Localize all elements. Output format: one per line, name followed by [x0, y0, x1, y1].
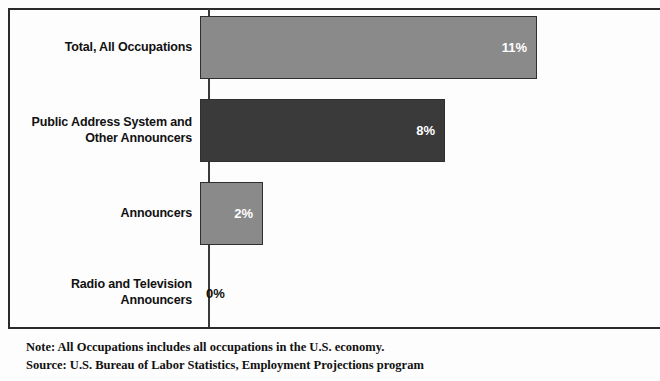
bar-track: 8%	[200, 99, 658, 162]
chart-figure: Total, All Occupations 11% Public Addres…	[0, 0, 660, 381]
bar-public-address-system-and-other-announcers: 8%	[200, 99, 445, 162]
bar-total-all-occupations: 11%	[200, 16, 537, 79]
bar-row: Public Address System and Other Announce…	[10, 99, 658, 162]
bar-value-label: 11%	[502, 40, 536, 55]
category-label-line1: Total, All Occupations	[65, 40, 192, 54]
category-label-line1: Public Address System and	[32, 115, 192, 129]
bar-value-label: 8%	[416, 123, 444, 138]
category-label: Announcers	[10, 206, 200, 222]
source-text: Source: U.S. Bureau of Labor Statistics,…	[26, 356, 646, 374]
category-label-line2: Other Announcers	[85, 131, 192, 145]
category-label-line2: Announcers	[121, 293, 192, 307]
category-label: Total, All Occupations	[10, 40, 200, 56]
bar-track: 0%	[200, 265, 658, 321]
bar-value-label: 2%	[234, 206, 262, 221]
note-text: Note: All Occupations includes all occup…	[26, 338, 646, 356]
notes-divider	[8, 327, 660, 329]
category-label: Radio and Television Announcers	[10, 277, 200, 308]
chart-notes: Note: All Occupations includes all occup…	[26, 338, 646, 374]
bar-track: 2%	[200, 182, 658, 245]
bar-value-label: 0%	[200, 286, 225, 301]
category-label-line1: Announcers	[121, 206, 192, 220]
bar-announcers: 2%	[200, 182, 263, 245]
bar-row: Radio and Television Announcers 0%	[10, 265, 658, 321]
category-label-line1: Radio and Television	[71, 277, 192, 291]
bar-row: Total, All Occupations 11%	[10, 16, 658, 79]
bar-track: 11%	[200, 16, 658, 79]
bar-row: Announcers 2%	[10, 182, 658, 245]
category-label: Public Address System and Other Announce…	[10, 115, 200, 146]
